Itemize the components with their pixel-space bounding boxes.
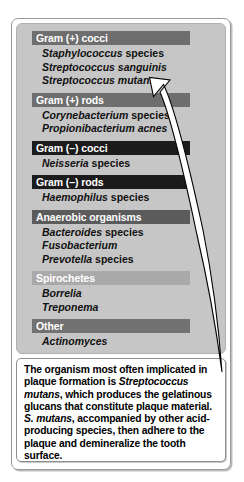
category-header: Gram (–) cocci [32, 141, 190, 155]
organism-rank: species [92, 253, 133, 265]
organism-entry: Treponema [42, 301, 226, 315]
organism-entry: Fusobacterium [42, 239, 226, 253]
category-header: Gram (+) rods [32, 93, 190, 107]
organism-genus: Bacteroides [42, 226, 102, 238]
category-header: Spirochetes [32, 271, 190, 285]
organism-genus: Prevotella [42, 253, 92, 265]
category-header: Anaerobic organisms [32, 210, 190, 224]
organism-rank: species [108, 191, 149, 203]
organism-entry: Haemophilus species [42, 191, 226, 205]
organism-entry: Streptococcus mutans [42, 74, 226, 88]
organism-entry: Actinomyces [42, 335, 226, 349]
organism-genus: Borrelia [42, 287, 82, 299]
organism-genus: Fusobacterium [42, 239, 117, 251]
figure-root: Gram (+) cocciStaphylococcus speciesStre… [0, 0, 244, 482]
organism-list: Gram (+) cocciStaphylococcus speciesStre… [17, 24, 226, 354]
category-header: Gram (+) cocci [32, 31, 190, 45]
organism-entry: Corynebacterium species [42, 109, 226, 123]
organism-genus: Neisseria [42, 157, 89, 169]
organism-entry: Prevotella species [42, 253, 226, 267]
organism-genus: Actinomyces [42, 335, 107, 347]
caption-text: The organism most often implicated in pl… [24, 364, 219, 462]
category-header: Gram (–) rods [32, 175, 190, 189]
organism-genus: Corynebacterium [42, 109, 128, 121]
organism-genus: Propionibacterium acnes [42, 122, 167, 134]
organism-list-panel: Gram (+) cocciStaphylococcus speciesStre… [16, 23, 226, 354]
organism-entry: Streptococcus sanguinis [42, 61, 226, 75]
organism-rank: species [89, 157, 130, 169]
organism-genus: Streptococcus mutans [42, 74, 155, 86]
organism-entry: Propionibacterium acnes [42, 122, 226, 136]
organism-rank: species [128, 109, 169, 121]
organism-genus: Staphylococcus [42, 47, 123, 59]
organism-genus: Treponema [42, 301, 98, 313]
organism-rank: species [123, 47, 164, 59]
caption-box: The organism most often implicated in pl… [16, 358, 226, 462]
organism-entry: Neisseria species [42, 157, 226, 171]
organism-genus: Haemophilus [42, 191, 108, 203]
caption-species-s-mutans: S. mutans [24, 413, 72, 424]
organism-entry: Bacteroides species [42, 226, 226, 240]
organism-genus: Streptococcus sanguinis [42, 61, 167, 73]
organism-entry: Borrelia [42, 287, 226, 301]
organism-rank: species [102, 226, 143, 238]
category-header: Other [32, 319, 190, 333]
organism-entry: Staphylococcus species [42, 47, 226, 61]
